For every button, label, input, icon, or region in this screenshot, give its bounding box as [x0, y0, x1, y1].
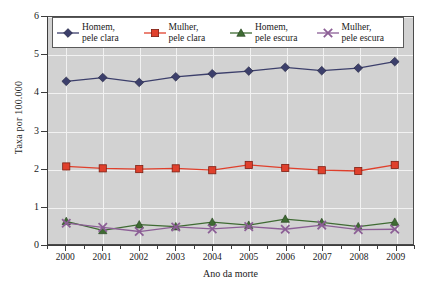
data-point-diamond — [317, 66, 326, 75]
y-tick-label: 6 — [19, 11, 39, 21]
series-line — [66, 223, 395, 231]
data-point-square — [245, 161, 252, 168]
data-point-square — [355, 167, 362, 174]
data-point-diamond — [354, 64, 363, 73]
x-tick-label: 2004 — [192, 252, 232, 262]
legend-item-1[interactable]: Mulher,pele clara — [142, 22, 229, 44]
x-minor-tick-mark — [377, 246, 378, 249]
x-tick-label: 2006 — [266, 252, 306, 262]
data-point-square — [136, 166, 143, 173]
x-tick-label: 2002 — [119, 252, 159, 262]
legend-label-1: Mulher,pele clara — [168, 22, 206, 44]
data-point-diamond — [244, 67, 253, 76]
data-point-square — [318, 167, 325, 174]
x-minor-tick-mark — [157, 246, 158, 249]
series-0 — [62, 57, 399, 87]
plot-area — [47, 16, 414, 245]
x-minor-tick-mark — [120, 246, 121, 249]
data-point-triangle — [208, 218, 216, 225]
x-tick-label: 2009 — [376, 252, 416, 262]
legend-label-line1: Mulher, — [342, 22, 384, 33]
y-tick-mark — [41, 54, 47, 55]
y-tick-mark — [41, 16, 47, 17]
x-tick-mark — [249, 246, 250, 251]
y-axis-title: Taxa por 100.000 — [13, 48, 24, 188]
series-layer — [48, 17, 413, 244]
data-point-diamond — [135, 78, 144, 87]
legend-marker-x-icon — [315, 26, 341, 40]
x-minor-tick-mark — [47, 246, 48, 249]
data-point-square — [209, 167, 216, 174]
y-tick-mark — [41, 169, 47, 170]
x-tick-mark — [359, 246, 360, 251]
x-tick-label: 2001 — [82, 252, 122, 262]
legend-marker-square-icon — [142, 26, 168, 40]
y-tick-label: 1 — [19, 202, 39, 212]
x-tick-label: 2005 — [229, 252, 269, 262]
data-point-diamond — [62, 77, 71, 86]
x-tick-label: 2003 — [155, 252, 195, 262]
legend-item-3[interactable]: Mulher,pele escura — [315, 22, 402, 44]
x-minor-tick-mark — [341, 246, 342, 249]
legend-label-line2: pele clara — [169, 33, 206, 44]
x-tick-mark — [212, 246, 213, 251]
data-point-triangle — [281, 215, 289, 222]
x-minor-tick-mark — [231, 246, 232, 249]
data-point-square — [172, 165, 179, 172]
legend-label-line1: Homem, — [82, 22, 119, 33]
series-2 — [62, 215, 399, 234]
x-tick-label: 2000 — [45, 252, 85, 262]
data-point-square — [282, 164, 289, 171]
series-1 — [63, 161, 399, 174]
y-tick-mark — [41, 131, 47, 132]
data-point-diamond — [208, 69, 217, 78]
data-point-diamond — [171, 72, 180, 81]
data-point-diamond — [281, 63, 290, 72]
data-point-diamond — [98, 73, 107, 82]
x-tick-mark — [102, 246, 103, 251]
legend-label-2: Homem,pele escura — [254, 22, 297, 44]
data-point-square — [151, 29, 158, 36]
legend-marker-triangle-icon — [228, 26, 254, 40]
data-point-diamond — [390, 57, 399, 66]
y-tick-mark — [41, 92, 47, 93]
legend-label-3: Mulher,pele escura — [341, 22, 384, 44]
x-tick-mark — [396, 246, 397, 251]
x-minor-tick-mark — [84, 246, 85, 249]
x-tick-label: 2008 — [339, 252, 379, 262]
legend-label-line1: Mulher, — [169, 22, 206, 33]
legend-label-0: Homem,pele clara — [81, 22, 119, 44]
data-point-square — [391, 161, 398, 168]
legend-item-2[interactable]: Homem,pele escura — [228, 22, 315, 44]
x-tick-mark — [286, 246, 287, 251]
x-tick-label: 2007 — [302, 252, 342, 262]
chart-legend: Homem,pele claraMulher,pele claraHomem,p… — [52, 17, 404, 48]
legend-label-line1: Homem, — [255, 22, 297, 33]
legend-item-0[interactable]: Homem,pele clara — [55, 22, 142, 44]
chart-container: 0123456 20002001200220032004200520062007… — [0, 0, 430, 289]
data-point-square — [63, 163, 70, 170]
x-tick-mark — [175, 246, 176, 251]
data-point-diamond — [64, 28, 73, 37]
x-axis-title: Ano da morte — [47, 268, 414, 279]
series-line — [66, 165, 395, 171]
legend-label-line2: pele escura — [255, 33, 297, 44]
series-line — [66, 62, 395, 83]
x-minor-tick-mark — [304, 246, 305, 249]
legend-label-line2: pele escura — [342, 33, 384, 44]
x-minor-tick-mark — [194, 246, 195, 249]
series-3 — [62, 219, 399, 236]
x-tick-mark — [322, 246, 323, 251]
data-point-triangle — [391, 218, 399, 225]
x-minor-tick-mark — [267, 246, 268, 249]
x-minor-tick-mark — [414, 246, 415, 249]
y-tick-mark — [41, 207, 47, 208]
x-tick-mark — [65, 246, 66, 251]
data-point-square — [99, 165, 106, 172]
legend-label-line2: pele clara — [82, 33, 119, 44]
x-tick-mark — [139, 246, 140, 251]
legend-marker-diamond-icon — [55, 26, 81, 40]
y-axis-line — [47, 16, 48, 246]
y-tick-label: 0 — [19, 240, 39, 250]
